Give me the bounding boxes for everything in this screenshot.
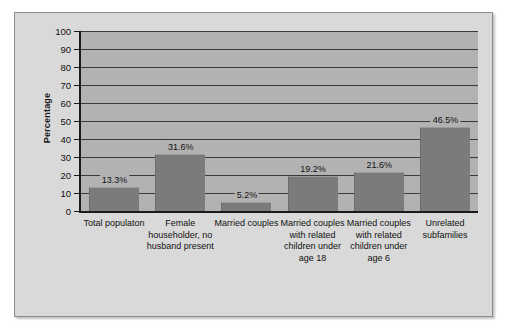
y-axis-tick-label: 40 — [60, 134, 71, 145]
y-axis-tick — [74, 121, 81, 122]
gridline — [81, 49, 478, 50]
gridline — [81, 31, 478, 32]
y-axis-tick-label: 20 — [60, 170, 71, 181]
bar: 13.3% — [89, 187, 139, 211]
y-axis-tick-label: 10 — [60, 188, 71, 199]
x-axis-category-label: Unrelated subfamilies — [410, 218, 480, 241]
bar-value-label: 19.2% — [298, 164, 328, 174]
y-axis-tick — [74, 211, 81, 212]
y-axis-tick — [74, 31, 81, 32]
y-axis-tick — [74, 157, 81, 158]
gridline — [81, 85, 478, 86]
gridline — [81, 157, 478, 158]
y-axis-tick — [74, 85, 81, 86]
y-axis-tick — [74, 67, 81, 68]
x-axis-category-label: Total populaton — [79, 218, 149, 230]
y-axis-tick — [74, 103, 81, 104]
y-axis-tick-label: 50 — [60, 116, 71, 127]
y-axis-tick — [74, 139, 81, 140]
y-axis-tick-label: 60 — [60, 98, 71, 109]
chart-figure: Percentage 100908070605040302010013.3%To… — [14, 12, 493, 317]
y-axis-tick-label: 80 — [60, 62, 71, 73]
bar: 21.6% — [354, 172, 404, 211]
y-axis-tick — [74, 175, 81, 176]
gridline — [81, 193, 478, 194]
gridline — [81, 103, 478, 104]
bar-value-label: 31.6% — [166, 142, 196, 152]
bar: 31.6% — [155, 154, 205, 211]
x-axis-category-label: Married couples with related children un… — [344, 218, 414, 264]
y-axis-tick-label: 30 — [60, 152, 71, 163]
x-axis-category-label: Female householder, no husband present — [145, 218, 215, 253]
gridline — [81, 175, 478, 176]
gridline — [81, 67, 478, 68]
y-axis-tick — [74, 193, 81, 194]
y-axis-tick-label: 0 — [66, 206, 71, 217]
y-axis-title: Percentage — [42, 63, 52, 173]
bar-value-label: 5.2% — [235, 190, 260, 200]
y-axis-tick-label: 90 — [60, 44, 71, 55]
gridline — [81, 139, 478, 140]
bar-value-label: 21.6% — [364, 160, 394, 170]
y-axis-tick — [74, 49, 81, 50]
y-axis-tick-label: 70 — [60, 80, 71, 91]
y-axis-tick-label: 100 — [55, 26, 71, 37]
bar: 46.5% — [420, 127, 470, 211]
bar-value-label: 46.5% — [431, 115, 461, 125]
bar-value-label: 13.3% — [100, 175, 130, 185]
plot-area: 100908070605040302010013.3%Total populat… — [79, 31, 478, 213]
x-axis-category-label: Married couples — [211, 218, 281, 230]
gridline — [81, 121, 478, 122]
x-axis-category-label: Married couples with related children un… — [278, 218, 348, 264]
bar: 5.2% — [221, 202, 271, 211]
bar: 19.2% — [288, 176, 338, 211]
